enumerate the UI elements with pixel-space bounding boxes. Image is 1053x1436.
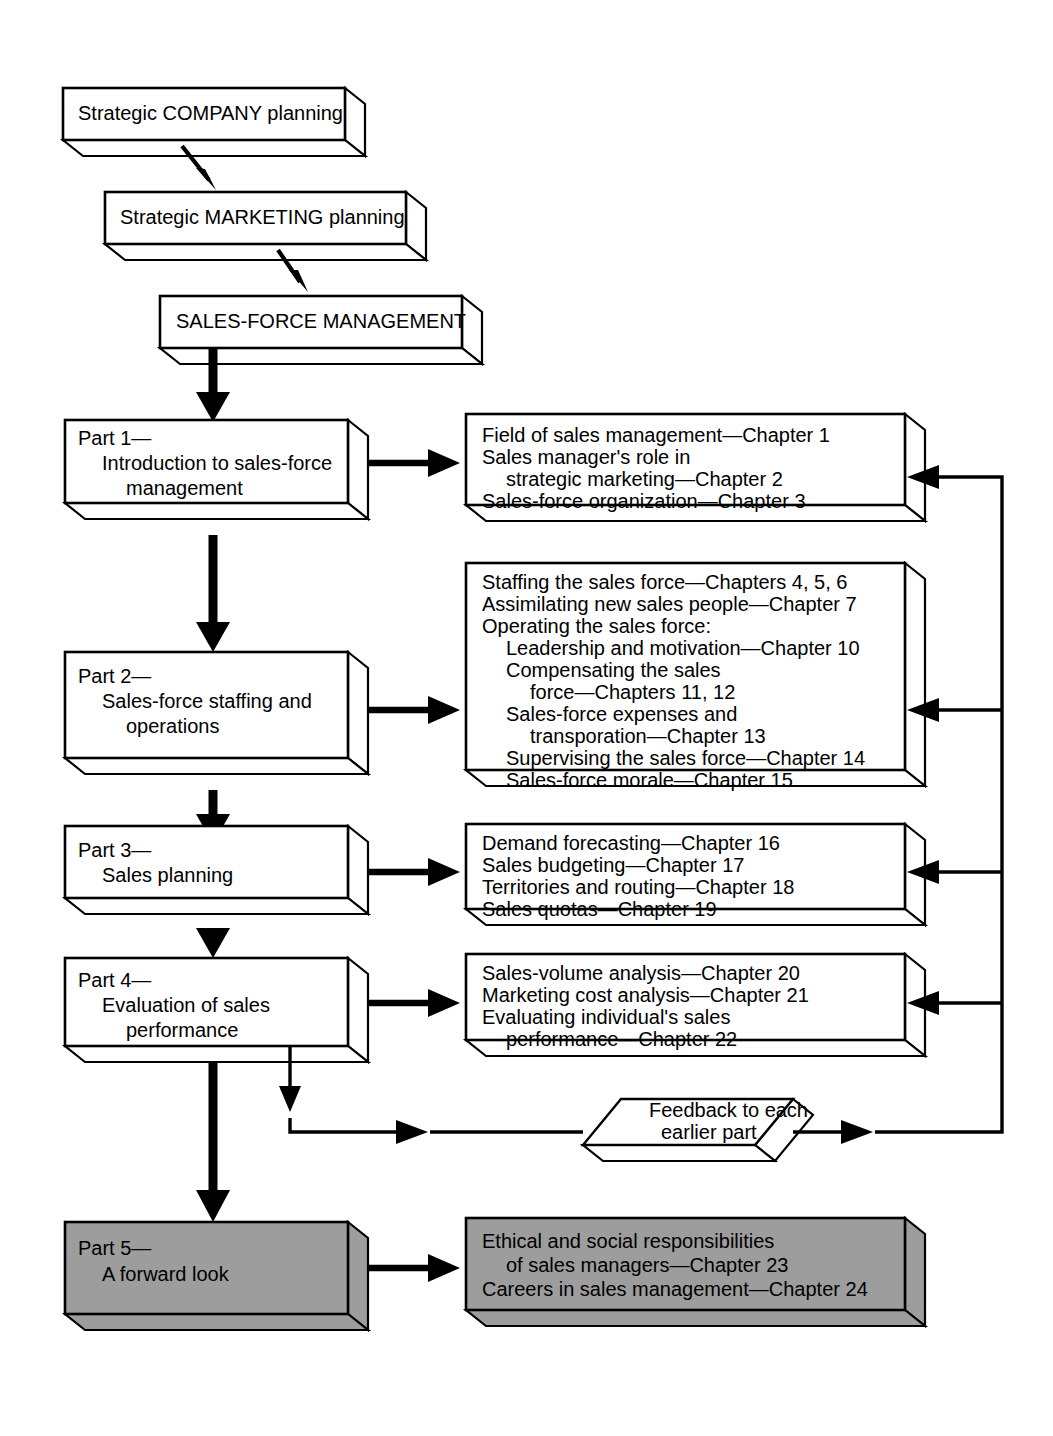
node-label-line: A forward look — [102, 1263, 230, 1285]
node-label-line: Sales planning — [102, 864, 233, 886]
chapter-line: Territories and routing—Chapter 18 — [482, 876, 794, 898]
chapter-line: Leadership and motivation—Chapter 10 — [506, 637, 860, 659]
node-feedback: Feedback to each earlier part — [583, 1099, 813, 1161]
chapter-line: Staffing the sales force—Chapters 4, 5, … — [482, 571, 847, 593]
box-bottom-panel — [65, 1046, 368, 1062]
chapter-line: strategic marketing—Chapter 2 — [506, 468, 783, 490]
box-bottom-panel — [65, 758, 368, 774]
arrow-part-4-to-chapters — [368, 989, 460, 1017]
box-side-panel — [348, 1222, 368, 1330]
chapter-line: Evaluating individual's sales — [482, 1006, 730, 1028]
node-label: Strategic COMPANY planning — [78, 102, 343, 124]
chapter-line: Sales budgeting—Chapter 17 — [482, 854, 744, 876]
box-bottom-panel — [105, 244, 426, 260]
chapter-line: Sales-force expenses and — [506, 703, 737, 725]
box-side-panel — [905, 1218, 925, 1326]
chapter-line: Sales manager's role in — [482, 446, 690, 468]
chapter-line: Careers in sales management—Chapter 24 — [482, 1278, 868, 1300]
chapter-line: Compensating the sales — [506, 659, 721, 681]
chapter-line: force—Chapters 11, 12 — [530, 681, 735, 703]
arrow-part-5-to-chapters — [368, 1254, 460, 1282]
node-label-line: performance — [126, 1019, 238, 1041]
chapter-line: Sales quotas—Chapter 19 — [482, 898, 717, 920]
box-bottom-panel — [65, 1314, 368, 1330]
chapter-line: Operating the sales force: — [482, 615, 711, 637]
node-label-line: Introduction to sales-force — [102, 452, 332, 474]
arrowhead — [289, 270, 308, 292]
flowchart-canvas: Strategic COMPANY planning Strategic MAR… — [0, 0, 1053, 1436]
box-bottom-panel — [466, 1310, 925, 1326]
arrow-part-2-to-chapters — [368, 696, 460, 724]
node-chapters-part-1: Field of sales management—Chapter 1 Sale… — [466, 414, 925, 521]
box-side-panel — [348, 958, 368, 1062]
box-bottom-panel — [63, 140, 365, 156]
node-label-line: Evaluation of sales — [102, 994, 270, 1016]
arrowhead — [428, 1254, 460, 1282]
feedback-label-line: earlier part — [661, 1121, 757, 1143]
arrowhead — [196, 928, 230, 958]
chapter-line: Sales-volume analysis—Chapter 20 — [482, 962, 800, 984]
node-chapters-part-2: Staffing the sales force—Chapters 4, 5, … — [466, 563, 925, 791]
node-strategic-company: Strategic COMPANY planning — [63, 88, 365, 156]
chapter-line: Marketing cost analysis—Chapter 21 — [482, 984, 809, 1006]
chapter-line: Supervising the sales force—Chapter 14 — [506, 747, 865, 769]
chapter-line: Field of sales management—Chapter 1 — [482, 424, 830, 446]
node-part-5: Part 5— A forward look — [65, 1222, 368, 1330]
arrowhead — [196, 168, 216, 190]
chapter-line: performance—Chapter 22 — [506, 1028, 737, 1050]
node-part-4: Part 4— Evaluation of sales performance — [65, 958, 368, 1062]
chapter-line: Demand forecasting—Chapter 16 — [482, 832, 780, 854]
chapter-line: Ethical and social responsibilities — [482, 1230, 774, 1252]
chapter-line: Assimilating new sales people—Chapter 7 — [482, 593, 857, 615]
arrowhead — [196, 392, 230, 422]
node-sales-force-management: SALES-FORCE MANAGEMENT — [160, 296, 482, 364]
node-label-line: operations — [126, 715, 219, 737]
node-label-line: management — [126, 477, 243, 499]
node-chapters-part-5: Ethical and social responsibilities of s… — [466, 1218, 925, 1326]
arrowhead — [196, 622, 230, 652]
chapter-line: of sales managers—Chapter 23 — [506, 1254, 788, 1276]
box-bottom-panel — [160, 348, 482, 364]
arrowhead — [428, 989, 460, 1017]
arrowhead — [196, 1190, 230, 1222]
node-chapters-part-4: Sales-volume analysis—Chapter 20 Marketi… — [466, 954, 925, 1056]
arrowhead — [279, 1086, 301, 1112]
node-label-line: Part 1— — [78, 427, 151, 449]
box-bottom-panel — [65, 898, 368, 914]
box-front-face — [65, 826, 348, 898]
node-label-line: Part 4— — [78, 969, 151, 991]
arrowhead — [428, 858, 460, 886]
feedback-label-line: Feedback to each — [649, 1099, 808, 1121]
node-label-line: Part 2— — [78, 665, 151, 687]
arrowhead — [428, 449, 460, 477]
node-label-line: Part 5— — [78, 1237, 151, 1259]
node-part-3: Part 3— Sales planning — [65, 826, 368, 914]
arrow-part-1-to-chapters — [368, 449, 460, 477]
node-label: SALES-FORCE MANAGEMENT — [176, 310, 466, 332]
node-chapters-part-3: Demand forecasting—Chapter 16 Sales budg… — [466, 824, 925, 925]
chapter-line: transporation—Chapter 13 — [530, 725, 766, 747]
node-label: Strategic MARKETING planning — [120, 206, 405, 228]
chapter-line: Sales-force morale—Chapter 15 — [506, 769, 793, 791]
arrowhead — [396, 1120, 428, 1144]
box-side-panel — [905, 414, 925, 521]
arrow-part-3-to-chapters — [368, 858, 460, 886]
node-label-line: Sales-force staffing and — [102, 690, 312, 712]
node-label-line: Part 3— — [78, 839, 151, 861]
box-bottom-panel — [65, 503, 368, 519]
arrowhead — [841, 1120, 873, 1144]
chapter-line: Sales-force organization—Chapter 3 — [482, 490, 806, 512]
node-part-2: Part 2— Sales-force staffing and operati… — [65, 652, 368, 774]
node-part-1: Part 1— Introduction to sales-force mana… — [65, 420, 368, 519]
box-side-panel — [905, 563, 925, 786]
flowchart-diagram: Strategic COMPANY planning Strategic MAR… — [0, 0, 1053, 1436]
box-side-panel — [348, 652, 368, 774]
para-bottom-panel — [583, 1145, 775, 1161]
arrowhead — [428, 696, 460, 724]
node-strategic-marketing: Strategic MARKETING planning — [105, 192, 426, 260]
